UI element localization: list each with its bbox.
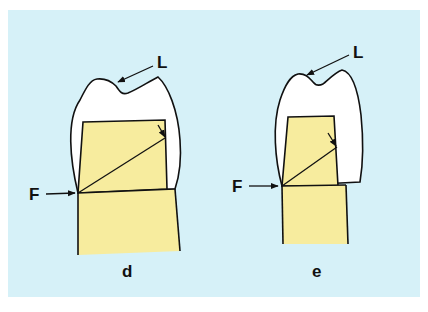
tooth-d-core bbox=[78, 120, 167, 193]
caption-e: e bbox=[312, 262, 321, 281]
tooth-d-root bbox=[78, 189, 180, 255]
tooth-e-label-l: L bbox=[353, 43, 363, 62]
tooth-e-margin-line bbox=[282, 185, 346, 186]
tooth-e-root-left-edge bbox=[282, 186, 283, 244]
tooth-e-root bbox=[282, 185, 348, 244]
tooth-d-label-f: F bbox=[29, 185, 39, 204]
tooth-section-figure: L F d L F e bbox=[0, 0, 428, 312]
tooth-e-core bbox=[282, 116, 338, 186]
tooth-d-label-l: L bbox=[157, 53, 167, 72]
tooth-e-label-f: F bbox=[232, 177, 242, 196]
caption-d: d bbox=[122, 262, 132, 281]
